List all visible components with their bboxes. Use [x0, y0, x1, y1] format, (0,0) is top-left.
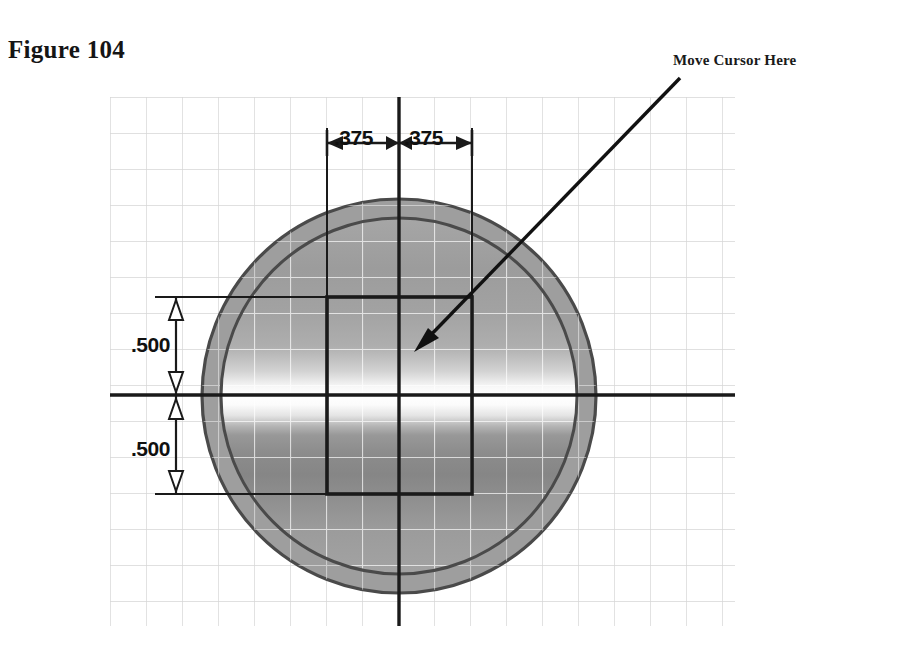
figure-page: Figure 104 Move Cursor Here: [0, 0, 899, 669]
dimension-value-500-bottom: .500: [131, 437, 170, 461]
dimension-value-500-top: .500: [131, 333, 170, 357]
dimension-value-375-right: .375: [404, 126, 443, 150]
dimension-value-375-left: .375: [334, 126, 373, 150]
